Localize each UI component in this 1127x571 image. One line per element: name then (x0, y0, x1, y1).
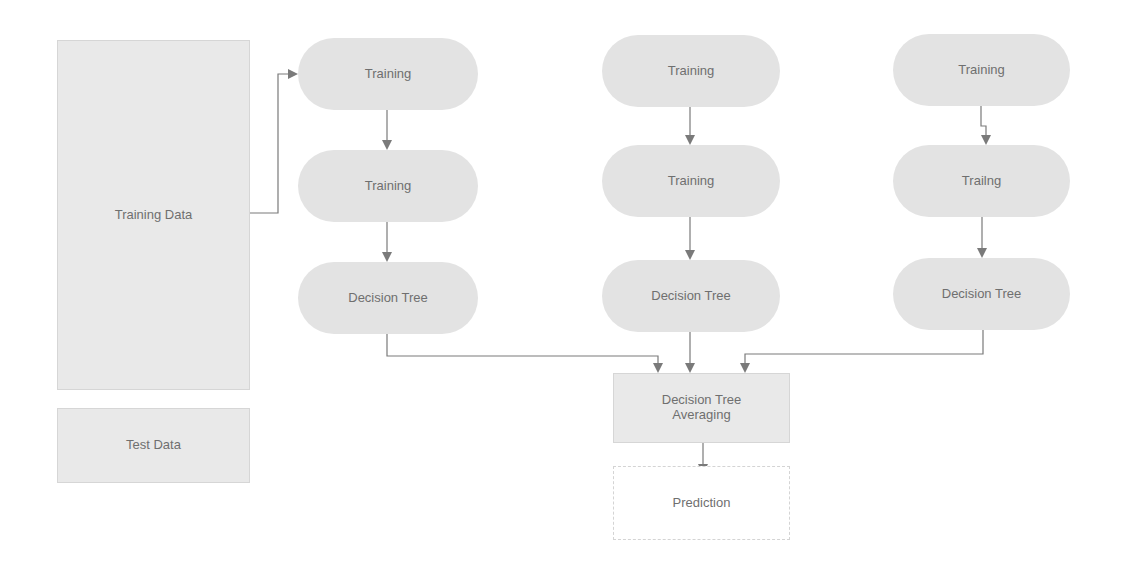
edge-col1-tree-to-averaging (387, 334, 658, 371)
col1-training-node-2: Training (298, 150, 478, 222)
col1-training-label-1: Training (365, 67, 411, 82)
averaging-label-line2: Averaging (672, 408, 730, 423)
test-data-label: Test Data (126, 438, 181, 453)
col3-training-node-2: Trailng (893, 145, 1070, 217)
col3-decision-tree-label: Decision Tree (942, 287, 1021, 302)
col2-decision-tree-node: Decision Tree (602, 260, 780, 332)
col2-training-label-1: Training (668, 64, 714, 79)
col2-training-node-2: Training (602, 145, 780, 217)
col3-training-node-1: Training (893, 34, 1070, 106)
col1-training-label-2: Training (365, 179, 411, 194)
prediction-box: Prediction (613, 466, 790, 540)
col3-decision-tree-node: Decision Tree (893, 258, 1070, 330)
edge-col3-step1-to-step2 (981, 106, 986, 143)
edge-col3-tree-to-averaging (745, 330, 983, 371)
decision-tree-averaging-box: Decision Tree Averaging (613, 373, 790, 443)
col2-training-label-2: Training (668, 174, 714, 189)
col2-training-node-1: Training (602, 35, 780, 107)
training-data-label: Training Data (115, 208, 193, 223)
col2-decision-tree-label: Decision Tree (651, 289, 730, 304)
col1-training-node-1: Training (298, 38, 478, 110)
col1-decision-tree-node: Decision Tree (298, 262, 478, 334)
test-data-box: Test Data (57, 408, 250, 483)
edge-training-data-to-training (250, 74, 296, 213)
averaging-label-line1: Decision Tree (662, 393, 741, 408)
prediction-label: Prediction (673, 496, 731, 511)
col3-training-label-2: Trailng (962, 174, 1001, 189)
training-data-box: Training Data (57, 40, 250, 390)
col1-decision-tree-label: Decision Tree (348, 291, 427, 306)
col3-training-label-1: Training (958, 63, 1004, 78)
